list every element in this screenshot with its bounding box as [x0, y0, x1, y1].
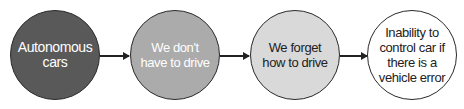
arrow-3-to-4: [340, 55, 367, 57]
node-no-need-to-drive: We don't have to drive: [130, 10, 220, 100]
arrow-1-to-2: [100, 55, 129, 57]
arrow-2-to-3: [220, 55, 249, 57]
node-inability-to-control: Inability to control car if there is a v…: [367, 10, 457, 100]
node-autonomous-cars: Autonomous cars: [10, 10, 100, 100]
node-label: We forget how to drive: [251, 40, 339, 70]
node-label: Inability to control car if there is a v…: [368, 25, 456, 85]
node-label: We don't have to drive: [131, 40, 219, 70]
node-forget-how-to-drive: We forget how to drive: [250, 10, 340, 100]
node-label: Autonomous cars: [11, 40, 99, 70]
